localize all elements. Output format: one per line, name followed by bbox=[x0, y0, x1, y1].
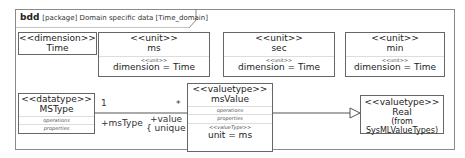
source-role: +msType bbox=[101, 118, 143, 128]
properties-compartment: properties bbox=[19, 124, 94, 133]
block-real[interactable]: <<valuetype>> Real (from SysMLValueTypes… bbox=[360, 95, 444, 134]
block-sec[interactable]: <<unit>> sec <<unit>> dimension = Time bbox=[223, 32, 335, 77]
block-name: min bbox=[346, 44, 444, 54]
block-name: ms bbox=[99, 44, 209, 54]
block-msvalue[interactable]: <<valuetype>> msValue operations propert… bbox=[187, 83, 273, 152]
block-name: sec bbox=[224, 44, 334, 54]
block-name: MSType bbox=[19, 105, 94, 115]
block-name: Time bbox=[19, 44, 96, 54]
generalization-arrowhead-icon bbox=[350, 108, 360, 118]
block-origin: (from SysMLValueTypes) bbox=[361, 118, 443, 136]
block-name: msValue bbox=[188, 95, 272, 105]
attribute: dimension = Time bbox=[99, 63, 209, 73]
operations-compartment: operations bbox=[188, 106, 272, 115]
block-time[interactable]: <<dimension>> Time bbox=[18, 32, 97, 55]
properties-compartment: properties bbox=[188, 114, 272, 123]
attribute: dimension = Time bbox=[224, 63, 334, 73]
source-multiplicity: 1 bbox=[101, 98, 107, 108]
block-min[interactable]: <<unit>> min <<unit>> dimension = Time bbox=[345, 32, 445, 77]
attribute: unit = ms bbox=[188, 131, 272, 141]
target-multiplicity: * bbox=[176, 99, 181, 109]
attribute: dimension = Time bbox=[346, 63, 444, 73]
block-mstype[interactable]: <<datatype>> MSType operations propertie… bbox=[18, 93, 95, 134]
operations-compartment: operations bbox=[19, 116, 94, 125]
block-ms[interactable]: <<unit>> ms <<unit>> dimension = Time bbox=[98, 32, 210, 77]
